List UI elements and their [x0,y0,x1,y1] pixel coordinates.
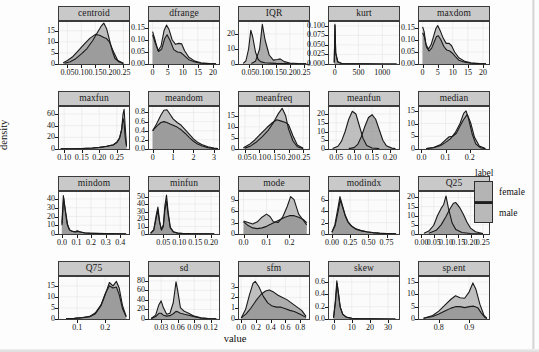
x-tick-mark [91,235,92,238]
y-tick-mark [325,123,328,124]
x-tick-mark [67,65,68,68]
x-tick-mark [483,235,484,238]
x-tick-label: 0.0 [57,239,67,247]
x-tick-mark [163,235,164,238]
x-tick-mark [211,320,212,323]
legend-item-male[interactable]: male [474,202,538,223]
y-tick-label: 0.00 [131,60,145,68]
x-tick-mark [214,150,215,153]
y-tick-mark [55,234,58,235]
y-tick-label: 0.00 [401,60,415,68]
facet-strip-label-sfm: sfm [238,261,310,276]
legend-item-female[interactable]: female [474,181,538,202]
x-tick-mark [95,65,96,68]
y-tick-mark [415,234,418,235]
y-tick-mark [415,111,418,112]
facet-strip-label-kurt: kurt [328,6,400,21]
y-tick-mark [325,211,328,212]
x-tick-label: 0.20 [282,154,296,162]
y-tick-label: 20 [227,30,235,38]
x-tick-mark [249,65,250,68]
x-axis-meanfreq: 0.050.100.150.200.25 [239,150,309,166]
y-tick-mark [145,212,148,213]
x-tick-label: 0.20 [102,69,116,77]
x-tick-mark [388,320,389,323]
x-tick-mark [372,150,373,153]
facet-strip-label-minfun: minfun [148,176,220,191]
x-tick-label: 0.2 [86,239,96,247]
x-tick-mark [168,65,169,68]
facet-strip-label-median: median [418,91,490,106]
y-tick-mark [235,234,238,235]
y-axis-centroid: 051015 [28,21,58,65]
x-tick-label: 0.0 [416,154,426,162]
x-tick-mark [304,65,305,68]
x-tick-label: 2 [191,154,195,162]
y-tick-mark [145,227,148,228]
y-tick-label: 0.15 [401,24,415,32]
x-tick-mark [62,235,63,238]
x-tick-label: 15 [194,69,202,77]
x-tick-mark [245,150,246,153]
facet-panel-maxdom: maxdom0.000.050.100.1505101520 [418,6,490,83]
y-tick-mark [325,54,328,55]
y-tick-mark [235,297,238,298]
x-tick-label: 15 [464,69,472,77]
y-tick-label: 30 [47,204,55,212]
x-tick-label: 0.25 [476,239,490,247]
y-axis-Q25: 05101520 [388,191,418,235]
y-tick-mark [145,204,148,205]
y-tick-label: 10 [47,293,55,301]
x-tick-label: 0.1 [441,154,451,162]
x-axis-maxfun: 0.100.150.200.25 [59,150,129,166]
y-tick-label: 0.6 [315,278,325,286]
y-axis-sd: 020406080 [118,276,148,320]
plot-area-maxdom [418,21,490,65]
y-axis-mode: 0369 [208,191,238,235]
facet-strip-label-dfrange: dfrange [148,6,220,21]
y-axis-Q75: 051015 [28,276,58,320]
y-tick-mark [145,219,148,220]
y-tick-label: 30 [137,208,145,216]
x-axis-maxdom: 05101520 [419,65,489,81]
y-tick-mark [235,200,238,201]
x-tick-mark [179,235,180,238]
y-tick-mark [145,149,148,150]
y-tick-mark [55,42,58,43]
x-tick-mark [213,65,214,68]
y-tick-mark [325,35,328,36]
x-tick-mark [198,65,199,68]
x-tick-mark [387,235,388,238]
y-tick-mark [235,34,238,35]
x-tick-label: 0.25 [110,154,124,162]
x-tick-label: 0.05 [238,154,252,162]
y-tick-mark [55,64,58,65]
legend: label female male [474,168,538,223]
x-tick-mark [468,65,469,68]
y-tick-mark [55,308,58,309]
y-tick-label: 0.075 [307,31,325,39]
y-tick-label: 80 [137,277,145,285]
facet-strip-label-mode: mode [238,176,310,191]
x-tick-mark [421,235,422,238]
x-tick-mark [259,150,260,153]
x-tick-label: 0.2 [251,324,261,332]
y-tick-mark [325,307,328,308]
y-tick-mark [55,114,58,115]
x-tick-label: 3 [212,154,216,162]
y-tick-label: 0.2 [315,303,325,311]
y-tick-mark [145,40,148,41]
facet-grid: centroid0510150.050.100.150.200.25dfrang… [24,6,464,324]
x-tick-mark [109,65,110,68]
x-tick-label: 0.15 [88,69,102,77]
y-tick-label: 20 [407,193,415,201]
x-tick-label: 0.06 [171,324,185,332]
x-tick-label: 0.15 [267,154,281,162]
y-tick-label: 15 [407,107,415,115]
x-tick-mark [161,320,162,323]
y-tick-mark [415,207,418,208]
x-tick-mark [105,320,106,323]
y-tick-mark [55,225,58,226]
y-tick-mark [235,308,238,309]
y-axis-meanfreq: 051015 [208,106,238,150]
